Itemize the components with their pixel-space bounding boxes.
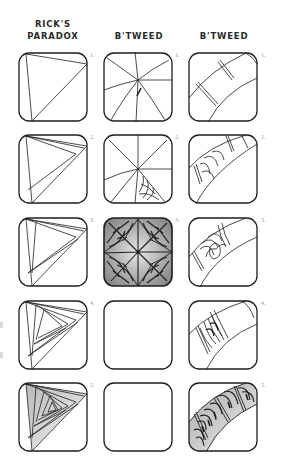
step-number: 2.: [175, 134, 180, 140]
step-number: 5.: [261, 382, 266, 388]
step-number: 1.: [261, 52, 266, 58]
step-number: 2.: [90, 134, 95, 140]
step-number: 3.: [90, 217, 95, 223]
header-line1: RICK'S: [10, 18, 96, 30]
btweed-a-step-4-blank: [103, 300, 173, 370]
column-header-btweed-2: B'TWEED: [181, 30, 267, 42]
btweed-b-step-2: [188, 134, 258, 204]
btweed-a-step-1: [103, 52, 173, 122]
header-line2: PARADOX: [10, 30, 96, 42]
ricks-paradox-step-3: [18, 217, 88, 287]
column-header-ricks-paradox: RICK'S PARADOX: [10, 18, 96, 42]
ricks-paradox-step-4: [18, 300, 88, 370]
btweed-a-step-3: [103, 217, 173, 287]
page-edge-mark: [0, 322, 3, 328]
step-number: 1.: [175, 52, 180, 58]
step-number: 4.: [90, 300, 95, 306]
step-number: 2.: [261, 134, 266, 140]
step-number: 4.: [261, 300, 266, 306]
header-line2: B'TWEED: [96, 30, 182, 42]
page-edge-mark: [0, 352, 3, 358]
step-number: 3.: [261, 217, 266, 223]
btweed-b-step-3: [188, 217, 258, 287]
step-number: 5.: [90, 382, 95, 388]
ricks-paradox-step-2: [18, 134, 88, 204]
btweed-b-step-4: [188, 300, 258, 370]
btweed-b-step-5: [188, 382, 258, 452]
column-header-btweed-1: B'TWEED: [96, 30, 182, 42]
ricks-paradox-step-5: [18, 382, 88, 452]
btweed-b-step-1: [188, 52, 258, 122]
btweed-a-step-2: [103, 134, 173, 204]
btweed-a-step-5-blank: [103, 382, 173, 452]
ricks-paradox-step-1: [18, 52, 88, 122]
step-number: 3.: [175, 217, 180, 223]
header-line2: B'TWEED: [181, 30, 267, 42]
step-number: 1.: [90, 52, 95, 58]
